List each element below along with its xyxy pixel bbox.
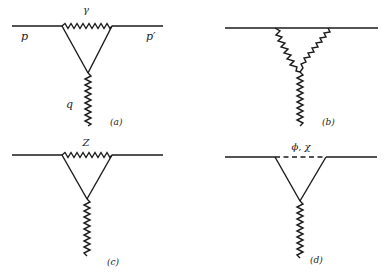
fermion-propagator-left (62, 26, 88, 73)
loop-boson-label: γ (83, 4, 89, 15)
panel-caption: (a) (110, 117, 123, 127)
panel-b: (b) (225, 28, 378, 127)
boson-propagator-left-wavy (275, 28, 300, 72)
external-boson-label: q (66, 98, 73, 111)
fermion-propagator-left (275, 157, 300, 201)
panel-c: Z (c) (12, 137, 163, 267)
outgoing-momentum-label: p′ (146, 30, 156, 43)
boson-propagator-right-wavy (300, 28, 330, 72)
feynman-diagram-figure: γ p p′ q (a) (b) Z (c) ϕ, χ (d) (0, 0, 387, 275)
external-boson-wavy (297, 201, 303, 258)
external-boson-wavy (85, 73, 91, 126)
incoming-momentum-label: p (21, 30, 28, 43)
external-boson-wavy (297, 72, 303, 126)
panel-caption: (b) (322, 117, 335, 127)
panel-d: ϕ, χ (d) (225, 141, 377, 265)
panel-a: γ p p′ q (a) (12, 4, 163, 127)
loop-scalar-label: ϕ, χ (291, 141, 311, 152)
z-boson-propagator-wavy (62, 153, 112, 158)
panel-caption: (d) (310, 255, 323, 265)
fermion-propagator-right (87, 155, 112, 199)
loop-boson-label: Z (82, 137, 91, 148)
panel-caption: (c) (107, 257, 120, 267)
fermion-propagator-left (62, 155, 87, 199)
external-boson-wavy (84, 199, 90, 256)
fermion-propagator-right (300, 157, 326, 201)
photon-propagator-wavy (62, 24, 112, 29)
fermion-propagator-right (88, 26, 112, 73)
